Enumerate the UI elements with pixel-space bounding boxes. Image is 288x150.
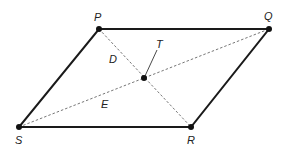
diagram-canvas: P Q R S T D E (0, 0, 288, 150)
label-d: D (109, 53, 117, 65)
vertex-r-dot (188, 124, 194, 130)
label-r: R (187, 134, 195, 146)
parallelogram-diagram: P Q R S T D E (0, 0, 288, 150)
label-s: S (15, 134, 23, 146)
label-p: P (94, 11, 102, 23)
center-t-dot (141, 75, 147, 81)
t-pointer-line (145, 50, 157, 76)
label-t: T (156, 38, 164, 50)
vertex-q-dot (266, 26, 272, 32)
vertex-s-dot (16, 124, 22, 130)
label-q: Q (264, 10, 273, 22)
vertex-p-dot (96, 26, 102, 32)
label-e: E (101, 98, 109, 110)
